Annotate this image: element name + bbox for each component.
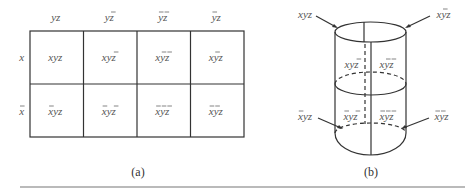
kmap-cell-label: xyz <box>208 105 224 117</box>
arrow-bottom-left <box>318 118 341 128</box>
caption-b: (b) <box>364 165 378 179</box>
svg-text:xyz: xyz <box>208 51 224 63</box>
kmap-cell-label: xyz <box>101 51 119 63</box>
svg-text:xyz: xyz <box>154 51 170 63</box>
kmap-column-headers: yzyzyzyz <box>50 11 221 23</box>
kmap-grid <box>30 31 244 137</box>
svg-text:xyz: xyz <box>379 58 395 70</box>
svg-text:xyz: xyz <box>101 51 117 63</box>
column-header: yz <box>157 11 169 23</box>
column-header: yz <box>104 11 116 23</box>
label-top-left: xyz <box>297 8 313 20</box>
svg-text:yz: yz <box>211 11 222 23</box>
karnaugh-figure: yzyzyzyz xx xyzxyzxyzxyzxyzxyzxyzxyz (a)… <box>0 0 465 193</box>
cylinder-labels: xyzxyzxyzxyzxyzxyzxyzxyz <box>297 8 451 122</box>
svg-text:xyz: xyz <box>297 8 313 20</box>
caption-a: (a) <box>131 165 144 179</box>
arrow-top-left <box>316 16 336 27</box>
svg-text:xyz: xyz <box>47 105 63 117</box>
label-bottom-right: xyz <box>434 110 450 122</box>
label-upper-inner-left: xyz <box>344 58 362 70</box>
column-header: yz <box>211 11 222 23</box>
svg-text:xyz: xyz <box>47 51 63 63</box>
label-lower-inner-right: xyz <box>379 110 397 122</box>
svg-text:xyz: xyz <box>434 110 450 122</box>
svg-text:yz: yz <box>104 11 115 23</box>
svg-text:xyz: xyz <box>154 105 170 117</box>
kmap-cell-label: xyz <box>47 51 63 63</box>
svg-text:xyz: xyz <box>297 110 313 122</box>
kmap-cell-label: xyz <box>154 51 172 63</box>
svg-text:xyz: xyz <box>343 110 359 122</box>
svg-text:xyz: xyz <box>379 110 395 122</box>
column-header: yz <box>50 11 61 23</box>
arrowhead-icon <box>405 24 411 28</box>
kmap-cell-label: xyz <box>47 105 63 117</box>
arrowhead-icon <box>332 24 338 28</box>
svg-text:xyz: xyz <box>101 105 117 117</box>
kmap-cell-label: xyz <box>154 105 172 117</box>
row-header: x <box>18 105 24 117</box>
row-header: x <box>18 51 24 63</box>
cylinder <box>316 16 430 155</box>
label-lower-inner-left: xyz <box>343 110 361 122</box>
cylinder-top-ellipse <box>335 22 406 42</box>
kmap-cell-label: xyz <box>101 105 119 117</box>
label-top-right: xyz <box>436 8 452 20</box>
svg-text:xyz: xyz <box>436 8 452 20</box>
label-bottom-left: xyz <box>297 110 313 122</box>
kmap-cell-label: xyz <box>208 51 224 63</box>
svg-text:xyz: xyz <box>208 105 224 117</box>
svg-text:yz: yz <box>157 11 168 23</box>
arrow-top-right <box>407 16 430 27</box>
label-upper-inner-right: xyz <box>379 58 397 70</box>
svg-text:x: x <box>18 51 24 63</box>
svg-text:yz: yz <box>50 11 61 23</box>
svg-text:x: x <box>18 105 24 117</box>
arrow-bottom-right <box>403 118 429 128</box>
svg-text:xyz: xyz <box>344 58 360 70</box>
kmap-row-headers: xx <box>18 51 24 117</box>
